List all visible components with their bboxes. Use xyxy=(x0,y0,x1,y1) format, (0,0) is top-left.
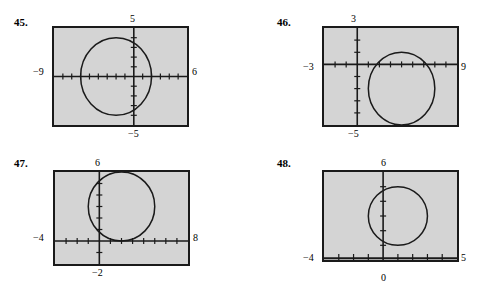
panel-48-graph xyxy=(324,172,457,260)
panel-46-top-label: 3 xyxy=(351,13,356,24)
panel-48-left-label: −4 xyxy=(303,252,314,263)
exercise-number-45: 45. xyxy=(14,16,28,28)
panel-48-circle-curve xyxy=(368,187,427,246)
panel-45-bottom-label: −5 xyxy=(128,128,139,139)
panel-46-left-label: −3 xyxy=(303,61,314,72)
panel-47-calculator-screen xyxy=(53,170,190,266)
panel-46-calculator-screen xyxy=(322,26,459,127)
panel-46-right-label: 9 xyxy=(461,61,466,72)
panel-45-top-label: 5 xyxy=(130,13,135,24)
panel-47-graph xyxy=(55,172,188,264)
panel-45-left-label: −9 xyxy=(33,66,44,77)
panel-48-bottom-label: 0 xyxy=(381,272,386,283)
panel-47-bottom-label: −2 xyxy=(92,267,103,278)
panel-46-bottom-label: −5 xyxy=(348,128,359,139)
panel-47-top-label: 6 xyxy=(95,157,100,168)
panel-45-graph xyxy=(54,28,187,125)
panel-46-graph xyxy=(324,28,457,125)
panel-47-right-label: 8 xyxy=(193,232,198,243)
panel-45-calculator-screen xyxy=(52,26,189,127)
panel-47-left-label: −4 xyxy=(33,232,44,243)
exercise-number-48: 48. xyxy=(277,157,291,169)
exercise-number-46: 46. xyxy=(277,16,291,28)
panel-48-right-label: 5 xyxy=(461,252,466,263)
panel-48-top-label: 6 xyxy=(381,157,386,168)
exercise-number-47: 47. xyxy=(14,157,28,169)
panel-45-right-label: 6 xyxy=(192,66,197,77)
panel-48-calculator-screen xyxy=(322,170,459,262)
